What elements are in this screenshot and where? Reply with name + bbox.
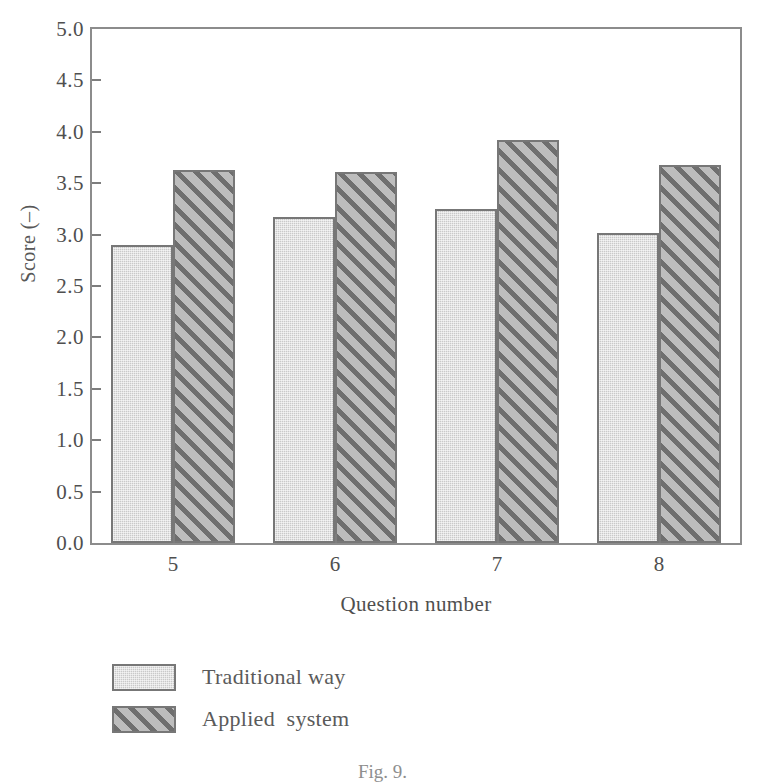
y-tick-mark: [92, 439, 101, 441]
bar-traditional-way-q8: [597, 233, 659, 543]
y-tick-label: 1.0: [26, 430, 84, 451]
y-axis-tick-labels: 0.00.51.01.52.02.53.03.54.04.55.0: [18, 0, 84, 775]
bar-applied-system-q7: [497, 140, 559, 543]
y-tick-mark: [92, 491, 101, 493]
x-tick-mark: [173, 534, 175, 543]
y-tick-mark: [92, 182, 101, 184]
bar-traditional-way-q5: [111, 245, 173, 543]
legend-entry-traditional-way: Traditional way: [112, 658, 532, 696]
plot-area: [90, 27, 742, 545]
y-tick-label: 0.0: [26, 533, 84, 554]
y-tick-label: 3.5: [26, 173, 84, 194]
x-tick-mark: [497, 534, 499, 543]
bar-applied-system-q6: [335, 172, 397, 543]
y-tick-mark: [92, 131, 101, 133]
y-tick-mark: [92, 79, 101, 81]
y-tick-mark: [92, 234, 101, 236]
x-axis-title: Question number: [90, 592, 742, 617]
x-tick-mark: [335, 534, 337, 543]
x-axis-tick-labels: 5678: [90, 552, 742, 586]
x-tick-label: 6: [305, 552, 365, 577]
y-tick-label: 3.0: [26, 224, 84, 245]
y-tick-label: 0.5: [26, 481, 84, 502]
chart-legend: Traditional way Applied system: [112, 658, 532, 742]
legend-label-applied-system: Applied system: [202, 706, 350, 732]
y-tick-label: 5.0: [26, 19, 84, 40]
x-tick-label: 8: [629, 552, 689, 577]
y-tick-mark: [92, 336, 101, 338]
y-tick-mark: [92, 285, 101, 287]
y-tick-label: 2.0: [26, 327, 84, 348]
x-tick-mark: [659, 534, 661, 543]
y-tick-label: 4.5: [26, 70, 84, 91]
legend-label-traditional-way: Traditional way: [202, 664, 346, 690]
y-tick-label: 4.0: [26, 121, 84, 142]
y-tick-label: 1.5: [26, 378, 84, 399]
x-tick-label: 5: [143, 552, 203, 577]
legend-swatch-applied-system: [112, 706, 176, 733]
y-tick-label: 2.5: [26, 276, 84, 297]
bar-applied-system-q5: [173, 170, 235, 543]
legend-entry-applied-system: Applied system: [112, 700, 532, 738]
y-tick-mark: [92, 388, 101, 390]
bar-applied-system-q8: [659, 165, 721, 543]
legend-swatch-traditional-way: [112, 664, 176, 691]
plot-inner: [92, 29, 740, 543]
x-tick-label: 7: [467, 552, 527, 577]
figure-caption: Fig. 9.: [0, 761, 765, 783]
bar-traditional-way-q6: [273, 217, 335, 543]
bar-traditional-way-q7: [435, 209, 497, 543]
